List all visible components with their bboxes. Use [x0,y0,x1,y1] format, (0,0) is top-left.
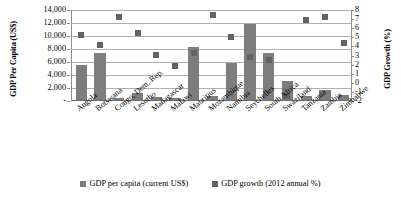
x-axis-tick-label: Zimbabwe [338,85,370,113]
legend-item[interactable]: GDP growth (2012 annual %) [212,180,320,188]
legend-label: GDP per capita (current US$) [89,180,188,188]
gdp-chart-figure: GDP Per Capita (US$) GDP Growth (%) -2,0… [0,0,401,201]
legend-swatch-icon [212,181,218,187]
legend-label: GDP growth (2012 annual %) [221,180,320,188]
legend-swatch-icon [80,181,86,187]
legend-item[interactable]: GDP per capita (current US$) [80,180,188,188]
chart-legend: GDP per capita (current US$)GDP growth (… [0,180,401,188]
x-axis-tick-label: Angola [76,92,99,114]
x-axis-category-labels: AngolaBotswanaCongo, Dem. Rep.LesothoMad… [0,0,401,201]
